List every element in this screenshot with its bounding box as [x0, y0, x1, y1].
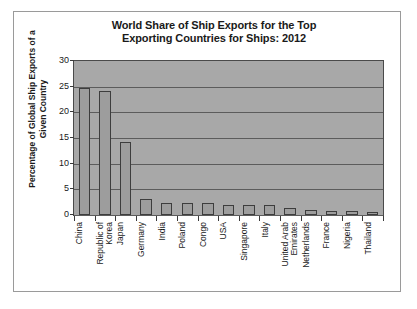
y-tick-label: 5 — [29, 184, 69, 193]
x-tick-mark — [177, 216, 178, 221]
bar[interactable] — [79, 88, 91, 215]
x-label-slot: United ArabEmirates — [280, 222, 301, 288]
bar-slot — [301, 61, 322, 215]
y-tick-label: 15 — [29, 133, 69, 142]
x-tick-label: Japan — [116, 222, 126, 245]
x-label-slot: Nigeria — [342, 222, 363, 288]
x-tick-label: India — [158, 222, 168, 240]
x-tick-mark — [95, 216, 96, 221]
x-tick-mark — [259, 216, 260, 221]
x-label-slot: Poland — [177, 222, 198, 288]
bar-slot — [239, 61, 260, 215]
x-label-slot: Japan — [115, 222, 136, 288]
y-tick-label: 30 — [29, 56, 69, 65]
bar[interactable] — [99, 91, 111, 215]
x-label-slot: USA — [218, 222, 239, 288]
x-tick-label-line-2: Korea — [105, 222, 115, 245]
x-label-slot: Netherlands — [301, 222, 322, 288]
x-label-slot: Thailand — [362, 222, 383, 288]
bar-series — [74, 61, 383, 215]
x-tick-mark — [362, 216, 363, 221]
x-tick-mark — [136, 216, 137, 221]
bar-slot — [321, 61, 342, 215]
x-tick-label: Singapore — [240, 222, 250, 261]
bar[interactable] — [305, 210, 317, 215]
bar[interactable] — [120, 142, 132, 215]
x-tick-label: France — [322, 222, 332, 248]
x-tick-mark — [321, 216, 322, 221]
x-tick-mark — [218, 216, 219, 221]
bar-slot — [95, 61, 116, 215]
x-tick-mark — [383, 216, 384, 221]
x-tick-mark — [342, 216, 343, 221]
bar-slot — [342, 61, 363, 215]
x-tick-label: USA — [219, 222, 229, 239]
x-label-slot: Republic ofKorea — [95, 222, 116, 288]
x-label-slot: China — [74, 222, 95, 288]
x-tick-mark — [239, 216, 240, 221]
bar-slot — [259, 61, 280, 215]
x-axis-ticks — [74, 216, 383, 221]
bar-slot — [136, 61, 157, 215]
x-label-slot: India — [156, 222, 177, 288]
x-tick-label: Thailand — [364, 222, 374, 255]
bar-slot — [218, 61, 239, 215]
bar[interactable] — [140, 199, 152, 215]
bar[interactable] — [161, 203, 173, 215]
x-tick-mark — [115, 216, 116, 221]
bar-slot — [198, 61, 219, 215]
bar-slot — [115, 61, 136, 215]
chart-title: World Share of Ship Exports for the Top … — [44, 19, 384, 45]
bar-slot — [362, 61, 383, 215]
x-label-slot: France — [321, 222, 342, 288]
chart-title-line-1: World Share of Ship Exports for the Top — [44, 19, 384, 32]
bar-slot — [280, 61, 301, 215]
x-tick-label: Italy — [261, 222, 271, 238]
bar[interactable] — [367, 212, 379, 215]
bar[interactable] — [326, 211, 338, 215]
x-tick-label-line-2: Emirates — [290, 222, 300, 256]
bar-slot — [177, 61, 198, 215]
x-axis-labels: ChinaRepublic ofKoreaJapanGermanyIndiaPo… — [74, 222, 383, 288]
y-axis-ticks: 302520151050 — [24, 60, 69, 216]
y-tick-label: 25 — [29, 81, 69, 90]
bar-slot — [74, 61, 95, 215]
x-label-slot: Congo — [198, 222, 219, 288]
bar[interactable] — [202, 203, 214, 215]
x-tick-mark — [74, 216, 75, 221]
bar-slot — [156, 61, 177, 215]
x-tick-label: Nigeria — [343, 222, 353, 249]
x-label-slot: Italy — [259, 222, 280, 288]
x-tick-label: Poland — [178, 222, 188, 248]
x-tick-label: Netherlands — [302, 222, 312, 268]
x-tick-label: Congo — [199, 222, 209, 247]
x-tick-mark — [280, 216, 281, 221]
bar[interactable] — [346, 211, 358, 215]
bar[interactable] — [223, 205, 235, 215]
chart-figure: World Share of Ship Exports for the Top … — [13, 11, 401, 292]
chart-title-line-2: Exporting Countries for Ships: 2012 — [44, 32, 384, 45]
x-tick-mark — [198, 216, 199, 221]
y-tick-label: 20 — [29, 107, 69, 116]
x-tick-label: Germany — [137, 222, 147, 257]
y-tick-label: 0 — [29, 210, 69, 219]
x-label-slot: Germany — [136, 222, 157, 288]
bar[interactable] — [284, 208, 296, 215]
x-tick-mark — [301, 216, 302, 221]
y-tick-label: 10 — [29, 158, 69, 167]
x-tick-label: China — [75, 222, 85, 244]
x-label-slot: Singapore — [239, 222, 260, 288]
x-tick-mark — [156, 216, 157, 221]
bar[interactable] — [182, 203, 194, 215]
bar[interactable] — [243, 205, 255, 215]
bar[interactable] — [264, 205, 276, 215]
